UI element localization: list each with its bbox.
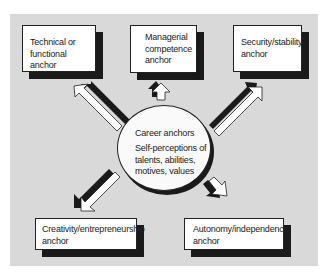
- anchor-label-line: competence: [145, 44, 196, 56]
- center-description: Self-perceptions of talents, abilities, …: [135, 143, 206, 178]
- career-anchors-center: Career anchors Self-perceptions of talen…: [117, 105, 211, 191]
- anchor-box-managerial: Managerial competence anchor: [130, 25, 197, 73]
- anchor-label-line: Creativity/entrepreneurship: [42, 224, 136, 236]
- center-title: Career anchors: [135, 128, 194, 138]
- arrow-to-creativity-icon: [74, 169, 120, 211]
- anchor-label-line: Autonomy/independence: [193, 224, 283, 236]
- anchor-label-line: functional anchor: [30, 49, 95, 72]
- arrow-to-autonomy-icon: [203, 177, 227, 198]
- center-description-line: Self-perceptions of: [135, 143, 206, 155]
- anchor-box-security: Security/stability anchor: [233, 25, 302, 72]
- anchor-label-line: anchor: [193, 236, 283, 248]
- center-description-line: motives, values: [135, 166, 206, 178]
- anchor-label-line: Managerial: [145, 32, 196, 44]
- anchor-label-line: anchor: [42, 236, 136, 248]
- arrow-to-managerial-icon: [148, 81, 170, 100]
- anchor-label-line: anchor: [145, 55, 196, 67]
- arrow-to-technical-icon: [74, 81, 132, 131]
- anchor-label-line: Security/stability: [241, 37, 301, 49]
- arrow-to-security-icon: [209, 82, 262, 136]
- anchor-box-creativity: Creativity/entrepreneurship anchor: [35, 218, 137, 250]
- anchor-label-line: Technical or: [30, 37, 95, 49]
- anchor-label-line: anchor: [241, 49, 301, 61]
- center-description-line: talents, abilities,: [135, 155, 206, 167]
- anchor-box-autonomy: Autonomy/independence anchor: [184, 218, 284, 250]
- anchor-box-technical: Technical or functional anchor: [22, 25, 96, 72]
